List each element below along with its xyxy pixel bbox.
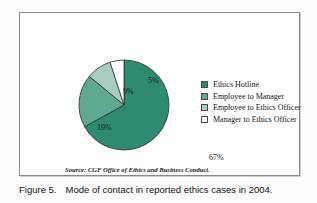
chart-legend: Ethics Hotline Employee to Manager Emplo… [201, 79, 313, 125]
legend-item-employee-to-manager: Employee to Manager [201, 91, 313, 103]
figure-caption: Figure 5. Mode of contact in reported et… [19, 184, 273, 195]
legend-swatch-icon [201, 104, 208, 111]
legend-item-label: Manager to Ethics Officer [213, 115, 297, 124]
legend-swatch-icon [201, 81, 208, 88]
pie-slice-label-employee-to-ethics-officer: 9% [123, 87, 134, 96]
pie-slice-label-manager-to-ethics-officer: 5% [148, 76, 159, 85]
legend-item-manager-to-ethics-officer: Manager to Ethics Officer [201, 114, 313, 126]
figure-page: 67% 19% 9% 5% Ethics Hotline Employee to… [0, 0, 317, 203]
figure-caption-text: Mode of contact in reported ethics cases… [66, 184, 273, 195]
pie-slice-label-employee-to-manager: 19% [97, 123, 112, 132]
pie-slice-group [79, 60, 169, 150]
legend-item-label: Employee to Ethics Officer [213, 103, 301, 112]
legend-swatch-icon [201, 116, 208, 123]
pie-slice-label-ethics-hotline: 67% [209, 153, 224, 162]
pie-chart-svg [61, 49, 189, 161]
legend-item-label: Ethics Hotline [213, 80, 259, 89]
pie-chart: 67% 19% 9% 5% [61, 49, 189, 161]
legend-item-ethics-hotline: Ethics Hotline [201, 79, 313, 91]
legend-item-employee-to-ethics-officer: Employee to Ethics Officer [201, 102, 313, 114]
source-note: Source: CGF Office of Ethics and Busines… [65, 166, 210, 173]
figure-caption-label: Figure 5. [19, 184, 57, 195]
legend-item-label: Employee to Manager [213, 92, 284, 101]
legend-swatch-icon [201, 93, 208, 100]
figure-frame: 67% 19% 9% 5% Ethics Hotline Employee to… [19, 12, 300, 176]
